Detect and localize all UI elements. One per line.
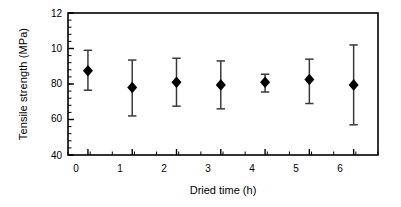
x-tick-label-6: 6 bbox=[330, 163, 350, 174]
x-tick-label-1: 1 bbox=[110, 163, 130, 174]
chart-figure: Tensile strength (MPa) Dried time (h) 40… bbox=[0, 0, 401, 207]
x-axis-title: Dried time (h) bbox=[68, 184, 378, 196]
x-tick-label-2: 2 bbox=[154, 163, 174, 174]
x-tick-label-0: 0 bbox=[66, 163, 86, 174]
y-axis-title: Tensile strength (MPa) bbox=[17, 9, 29, 159]
plot-canvas bbox=[0, 0, 401, 207]
y-tick-label-40: 40 bbox=[36, 150, 62, 161]
x-tick-label-3: 3 bbox=[198, 163, 218, 174]
y-tick-label-100: 10 bbox=[36, 43, 62, 54]
x-tick-label-4: 4 bbox=[242, 163, 262, 174]
x-tick-label-5: 5 bbox=[286, 163, 306, 174]
y-tick-label-80: 80 bbox=[36, 78, 62, 89]
y-tick-label-120: 12 bbox=[36, 8, 62, 19]
y-tick-label-60: 60 bbox=[36, 113, 62, 124]
